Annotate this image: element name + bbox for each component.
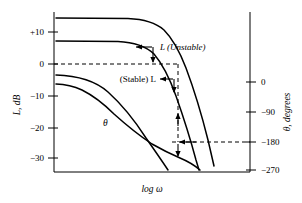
right-tick-label-0: 0 bbox=[261, 77, 266, 87]
left-tick-label-10: +10 bbox=[30, 27, 45, 37]
left-axis-ticks bbox=[48, 32, 58, 158]
left-tick-label-neg20: −20 bbox=[30, 123, 45, 133]
right-tick-label-neg90: −90 bbox=[261, 107, 276, 117]
annotation-label-stable: (Stable) L bbox=[120, 74, 156, 84]
unstable-arrow-down-head bbox=[150, 57, 155, 63]
y-axis-left-title: L, dB bbox=[12, 95, 22, 117]
annotation-label-theta: θ bbox=[103, 118, 108, 128]
left-tick-label-neg30: −30 bbox=[30, 153, 45, 163]
curve-L-unstable bbox=[56, 18, 214, 166]
right-tick-label-neg270: −270 bbox=[261, 165, 280, 175]
right-tick-label-neg180: −180 bbox=[261, 137, 280, 147]
plot-frame bbox=[54, 12, 250, 172]
right-axis-ticks bbox=[246, 82, 256, 170]
left-tick-label-0: 0 bbox=[40, 59, 45, 69]
annotation-unstable-arrows bbox=[136, 44, 156, 63]
y-axis-right-title: θ, degrees bbox=[282, 92, 292, 131]
x-axis-title: log ω bbox=[141, 184, 163, 194]
crossover-arrow-up-head bbox=[175, 113, 180, 119]
chart-svg: +10 0 −10 −20 −30 0 −90 −180 −270 L (Uns… bbox=[0, 0, 302, 203]
curve-L-stable bbox=[56, 75, 168, 170]
annotation-label-unstable: L (Unstable) bbox=[159, 42, 206, 52]
annotation-stable-arrows bbox=[160, 76, 177, 93]
crossover-arrow-left-head bbox=[179, 139, 185, 144]
left-tick-label-neg10: −10 bbox=[30, 91, 45, 101]
bode-plot-figure: +10 0 −10 −20 −30 0 −90 −180 −270 L (Uns… bbox=[0, 0, 302, 203]
stable-arrow-left-head bbox=[160, 76, 166, 81]
stable-arrow-down-head bbox=[171, 87, 176, 93]
